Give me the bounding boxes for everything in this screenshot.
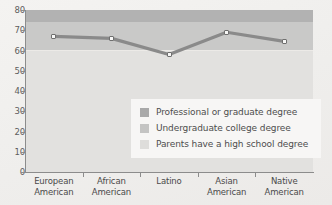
legend-item-high-school: Parents have a high school degree <box>131 136 321 152</box>
x-axis-label-line: Asian <box>198 176 256 187</box>
x-axis-label-line: American <box>25 187 83 198</box>
x-axis-label-line: European <box>25 176 83 187</box>
data-point-marker <box>51 34 56 39</box>
x-axis-label-line: African <box>83 176 141 187</box>
band-professional-degree <box>25 10 313 22</box>
y-tick-mark <box>21 111 25 112</box>
x-axis-label-line: American <box>255 187 313 198</box>
legend-item-professional: Professional or graduate degree <box>131 104 321 120</box>
y-tick-mark <box>21 10 25 11</box>
x-axis-label: AsianAmerican <box>198 176 256 197</box>
x-axis-label: NativeAmerican <box>255 176 313 197</box>
legend-swatch-undergraduate <box>140 124 149 133</box>
x-axis-label: AfricanAmerican <box>83 176 141 197</box>
y-tick-mark <box>21 152 25 153</box>
legend-swatch-high-school <box>140 140 149 149</box>
chart-legend: Professional or graduate degree Undergra… <box>131 99 321 158</box>
x-axis-label: EuropeanAmerican <box>25 176 83 197</box>
x-axis-label-line: Native <box>255 176 313 187</box>
y-tick-mark <box>21 51 25 52</box>
legend-label-professional: Professional or graduate degree <box>156 107 297 117</box>
x-axis-label-line: American <box>198 187 256 198</box>
x-axis-label-line: American <box>83 187 141 198</box>
y-tick-mark <box>21 30 25 31</box>
data-point-marker <box>167 52 172 57</box>
legend-swatch-professional <box>140 108 149 117</box>
band-undergraduate-degree <box>25 22 313 50</box>
x-axis-label-line: Latino <box>140 176 198 187</box>
legend-label-high-school: Parents have a high school degree <box>156 139 308 149</box>
y-tick-mark <box>21 172 25 173</box>
data-point-marker <box>282 39 287 44</box>
legend-label-undergraduate: Undergraduate college degree <box>156 123 291 133</box>
legend-item-undergraduate: Undergraduate college degree <box>131 120 321 136</box>
x-axis-label: Latino <box>140 176 198 187</box>
x-axis-line <box>25 172 314 173</box>
y-tick-mark <box>21 71 25 72</box>
y-tick-mark <box>21 132 25 133</box>
data-point-marker <box>109 36 114 41</box>
chart-root: 01020304050607080 EuropeanAmericanAfrica… <box>0 0 332 205</box>
y-tick-mark <box>21 91 25 92</box>
y-axis: 01020304050607080 <box>0 0 25 180</box>
data-point-marker <box>224 30 229 35</box>
y-axis-line <box>25 10 26 173</box>
